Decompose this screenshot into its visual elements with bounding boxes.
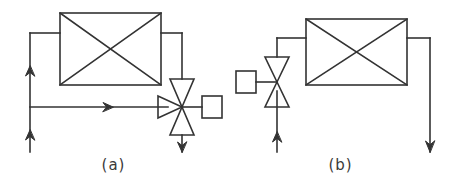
valve-actuator-a[interactable] [202,96,222,118]
panel-a [26,13,223,152]
heat-exchanger-b [306,19,407,85]
panel-b-caption: (b) [227,156,454,174]
panel-a-caption: (a) [0,156,227,174]
heat-exchanger-a [60,13,161,85]
valve-upper-cone-b [265,57,289,82]
valve-actuator-b[interactable] [236,71,256,93]
figure-container: (a) (b) [0,0,454,195]
panel-b [236,19,435,152]
